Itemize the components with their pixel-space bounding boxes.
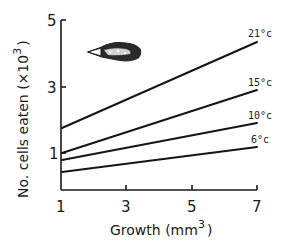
series-label-21c: 21°c xyxy=(248,28,272,39)
x-tick-label-3: 3 xyxy=(121,198,131,216)
organism-illustration-icon xyxy=(88,43,141,61)
x-tick-label-1: 1 xyxy=(56,198,66,216)
x-axis-title: Growth (mm3) xyxy=(110,218,212,238)
x-tick-label-7: 7 xyxy=(252,198,262,216)
series-label-15c: 15°c xyxy=(248,77,272,88)
y-axis-title: No. cells eaten (×103) xyxy=(11,40,31,198)
x-tick-label-5: 5 xyxy=(187,198,197,216)
series-line-10c xyxy=(62,123,257,160)
y-tick-label-3: 3 xyxy=(47,79,57,97)
y-tick-label-1: 1 xyxy=(49,145,59,163)
series-label-6c: 6°c xyxy=(251,134,269,145)
y-axis: 5 3 1 xyxy=(47,12,66,190)
series-line-21c xyxy=(62,42,257,128)
line-chart: 5 3 1 1 3 5 7 Growth (mm3) No. cells eat… xyxy=(0,0,282,245)
series-line-15c xyxy=(62,90,257,153)
x-axis: 1 3 5 7 xyxy=(56,185,262,216)
series-line-6c xyxy=(62,147,257,172)
y-tick-label-5: 5 xyxy=(47,12,57,30)
series-label-10c: 10°c xyxy=(248,110,272,121)
